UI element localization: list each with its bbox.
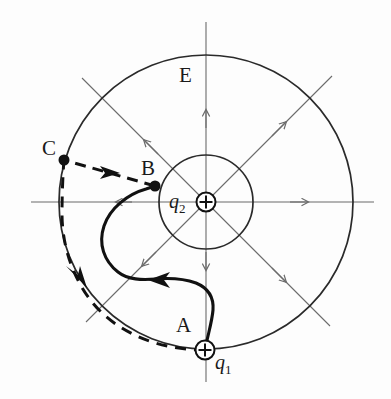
point-marker-b <box>150 181 161 192</box>
label-charge-q2-symbol: q <box>169 190 179 212</box>
field-line-diagonal-nw-arrow <box>144 140 158 154</box>
field-line-diagonal-sw-arrow <box>142 252 156 266</box>
label-point-a: A <box>176 313 191 338</box>
label-charge-q1-symbol: q <box>215 351 225 373</box>
diagram-canvas <box>0 0 391 399</box>
field-line-diagonal-se-arrow <box>272 268 286 282</box>
label-field-e: E <box>179 63 192 88</box>
point-marker-c <box>59 155 70 166</box>
label-charge-q2: q2 <box>169 190 186 217</box>
solid-path-a-to-b <box>102 186 213 350</box>
charge-q2-symbol <box>197 193 216 212</box>
field-line-diagonal-se <box>206 202 330 326</box>
label-point-c: C <box>42 136 56 161</box>
label-point-b: B <box>141 156 155 181</box>
charge-q1-symbol <box>196 341 215 360</box>
label-charge-q2-sub: 2 <box>179 201 186 216</box>
physics-field-diagram: E A B C q2 q1 <box>0 0 391 399</box>
field-line-diagonal-ne <box>206 76 332 202</box>
field-line-diagonal-ne-arrow <box>272 122 286 136</box>
dashed-path-bc-arrowhead <box>100 166 120 179</box>
label-charge-q1: q1 <box>215 351 232 378</box>
label-charge-q1-sub: 1 <box>225 362 232 377</box>
solid-path-curve <box>102 186 213 350</box>
